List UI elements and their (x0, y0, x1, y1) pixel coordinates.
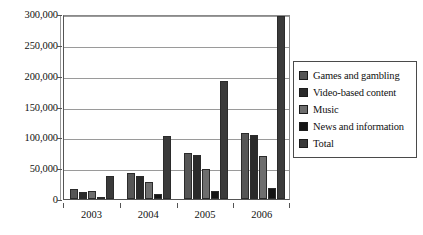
bar-chart: 050,000100,000150,000200,000250,000300,0… (0, 0, 423, 235)
bar (277, 16, 285, 199)
bar (250, 135, 258, 199)
y-axis-tick-label: 250,000 (4, 41, 58, 51)
legend-item: Video-based content (299, 84, 412, 101)
legend-label: Music (313, 104, 339, 115)
legend-item: Music (299, 101, 412, 118)
bar (97, 197, 105, 199)
y-axis-tick-label: 150,000 (4, 103, 58, 113)
y-axis-tick-mark (57, 169, 62, 170)
bar (154, 194, 162, 199)
bar (106, 176, 114, 199)
x-axis-tick-mark (289, 203, 290, 208)
bar (136, 176, 144, 199)
bar (70, 189, 78, 199)
x-axis-tick-label: 2003 (65, 209, 117, 220)
bar (184, 153, 192, 199)
legend-swatch-icon (299, 139, 308, 148)
bar-group-2005 (178, 16, 235, 199)
legend-swatch-icon (299, 122, 308, 131)
x-axis-tick-mark (63, 203, 64, 208)
plot-area (63, 15, 290, 200)
y-axis-tick-mark (57, 15, 62, 16)
bar-group-2003 (64, 16, 121, 199)
chart-legend: Games and gamblingVideo-based contentMus… (293, 61, 417, 158)
bar (268, 188, 276, 199)
bar (241, 133, 249, 199)
legend-item: Games and gambling (299, 67, 412, 84)
x-axis-tick-label: 2005 (179, 209, 231, 220)
legend-swatch-icon (299, 105, 308, 114)
bar (88, 191, 96, 199)
x-axis-tick-mark (233, 203, 234, 208)
bar (202, 169, 210, 199)
x-axis-tick-label: 2006 (236, 209, 288, 220)
x-axis-tick-mark (177, 203, 178, 208)
bar-group-2006 (234, 16, 291, 199)
bar (163, 136, 171, 199)
legend-item: News and information (299, 118, 412, 135)
legend-label: Total (313, 138, 334, 149)
bar (145, 182, 153, 199)
x-axis: 2003200420052006 (63, 203, 290, 223)
y-axis-tick-mark (57, 77, 62, 78)
bar (193, 155, 201, 199)
legend-item: Total (299, 135, 412, 152)
y-axis-tick-mark (57, 138, 62, 139)
legend-swatch-icon (299, 88, 308, 97)
y-axis-tick-label: 200,000 (4, 72, 58, 82)
y-axis-tick-label: 0 (4, 195, 58, 205)
y-axis-tick-label: 300,000 (4, 10, 58, 20)
legend-swatch-icon (299, 71, 308, 80)
bar (220, 81, 228, 199)
legend-label: Video-based content (313, 87, 396, 98)
y-axis: 050,000100,000150,000200,000250,000300,0… (0, 0, 58, 235)
x-axis-tick-mark (120, 203, 121, 208)
y-axis-tick-mark (57, 108, 62, 109)
bar (259, 156, 267, 199)
bar (79, 192, 87, 199)
bar (211, 191, 219, 199)
x-axis-tick-label: 2004 (122, 209, 174, 220)
y-axis-tick-label: 50,000 (4, 164, 58, 174)
legend-label: News and information (313, 121, 404, 132)
y-axis-tick-label: 100,000 (4, 133, 58, 143)
y-axis-tick-mark (57, 200, 62, 201)
y-axis-tick-mark (57, 46, 62, 47)
bar-group-2004 (121, 16, 178, 199)
bar (127, 173, 135, 199)
legend-label: Games and gambling (313, 70, 400, 81)
